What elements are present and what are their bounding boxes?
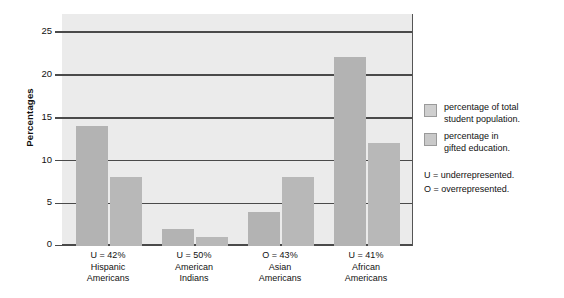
tick-mark-0 [55, 245, 62, 247]
bar-group-asian-americans [248, 14, 314, 246]
y-tick-label-0: 0 [28, 238, 52, 249]
tick-mark-20 [55, 74, 62, 76]
bar-asian-gifted [282, 177, 314, 246]
x-label-african-americans: U = 41% African Americans [311, 250, 421, 285]
tick-mark-5 [55, 203, 62, 205]
bar-chart-figure: Percentages 25 20 15 10 5 0 [0, 0, 564, 298]
legend-swatch-icon-gifted-education [424, 133, 437, 146]
bar-hispanic-total [76, 126, 108, 246]
bar-african-total [334, 57, 366, 246]
legend-label-line2: student population. [444, 114, 564, 126]
legend-notes: U = underrepresented. O = overrepresente… [424, 168, 564, 196]
y-tick-label-15: 15 [28, 111, 52, 122]
chart-legend: percentage of total student population. … [424, 102, 564, 196]
legend-label-line1: percentage of total [444, 102, 564, 114]
note-overrepresented: O = overrepresented. [424, 182, 564, 196]
legend-item-gifted-education: percentage in gifted education. [424, 131, 564, 154]
tick-mark-10 [55, 160, 62, 162]
bar-group-american-indians [162, 14, 228, 246]
x-label-line3: Americans [311, 273, 421, 285]
tick-mark-15 [55, 117, 62, 119]
y-tick-label-20: 20 [28, 68, 52, 79]
x-label-stat: U = 41% [311, 250, 421, 262]
legend-label-line2: gifted education. [444, 143, 564, 155]
plot-area: 25 20 15 10 5 0 [62, 14, 413, 246]
y-tick-label-5: 5 [28, 196, 52, 207]
legend-label-line1: percentage in [444, 131, 564, 143]
bar-amerindian-total [162, 229, 194, 246]
bar-african-gifted [368, 143, 400, 246]
x-label-line2: African [311, 262, 421, 274]
y-tick-label-10: 10 [28, 154, 52, 165]
legend-item-total-population: percentage of total student population. [424, 102, 564, 125]
bar-hispanic-gifted [110, 177, 142, 246]
note-underrepresented: U = underrepresented. [424, 168, 564, 182]
bar-group-african-americans [334, 14, 400, 246]
tick-mark-25 [55, 31, 62, 33]
bar-asian-total [248, 212, 280, 246]
y-tick-label-25: 25 [28, 25, 52, 36]
legend-swatch-icon-total-population [424, 104, 437, 117]
bar-amerindian-gifted [196, 237, 228, 246]
bar-group-hispanic-americans [76, 14, 142, 246]
